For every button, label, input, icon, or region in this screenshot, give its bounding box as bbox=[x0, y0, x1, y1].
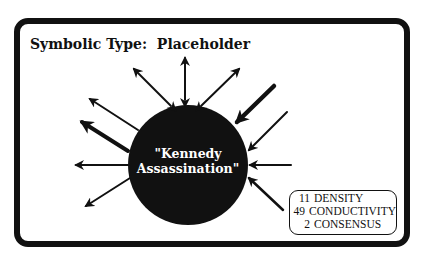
arrow-outgoing-lower-left bbox=[86, 178, 130, 206]
arrow-incoming-right-upper bbox=[249, 112, 287, 150]
arrow-outgoing-left-upper-thick bbox=[82, 122, 128, 151]
arrow-upper-right-bidirectional bbox=[201, 69, 239, 106]
arrow-outgoing-left-upper-thin bbox=[90, 99, 138, 130]
metrics-box: 11 DENSITY 49 CONDUCTIVITY 2 CONSENSUS bbox=[289, 190, 397, 235]
arrow-upper-left-bidirectional bbox=[134, 69, 171, 106]
metric-density: 11 DENSITY bbox=[290, 192, 396, 205]
central-node-label: "Kennedy Assassination" bbox=[128, 146, 248, 176]
central-node-label-line1: "Kennedy bbox=[128, 146, 248, 161]
metric-label: CONSENSUS bbox=[314, 218, 381, 231]
metric-label: CONDUCTIVITY bbox=[309, 205, 396, 218]
metric-conductivity: 49 CONDUCTIVITY bbox=[290, 205, 396, 218]
metric-value: 11 bbox=[290, 192, 314, 205]
arrow-incoming-lower-right bbox=[249, 178, 283, 210]
metric-value: 2 bbox=[290, 218, 314, 231]
central-node-label-line2: Assassination" bbox=[128, 161, 248, 176]
metric-label: DENSITY bbox=[314, 192, 363, 205]
metric-value: 49 bbox=[290, 205, 309, 218]
arrow-incoming-thick-upper-right bbox=[237, 86, 274, 122]
metric-consensus: 2 CONSENSUS bbox=[290, 218, 396, 231]
